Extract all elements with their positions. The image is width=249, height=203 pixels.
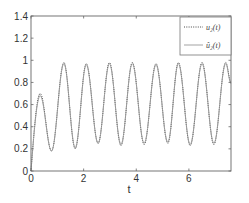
legend: u₂(t) û₂(t): [180, 17, 231, 55]
x-tick-label: 6: [186, 173, 192, 184]
chart-figure: 024600.20.40.60.811.21.4 u₂(t) û₂(t) t: [0, 0, 249, 203]
y-tick-label: 0.4: [14, 121, 28, 132]
y-tick-label: 1.4: [14, 11, 28, 22]
x-tick-label: 2: [81, 173, 87, 184]
x-axis-label: t: [127, 183, 130, 195]
y-tick-label: 0: [22, 166, 28, 177]
y-tick-label: 0.8: [14, 77, 28, 88]
x-tick-label: 4: [133, 173, 139, 184]
y-tick-label: 1.2: [14, 33, 28, 44]
legend-label-u2: u₂(t): [206, 23, 221, 32]
y-tick-label: 0.6: [14, 99, 28, 110]
x-tick-label: 0: [28, 173, 34, 184]
y-tick-label: 0.2: [14, 143, 28, 154]
legend-label-u2-hat: û₂(t): [206, 41, 221, 50]
y-tick-label: 1: [22, 55, 28, 66]
